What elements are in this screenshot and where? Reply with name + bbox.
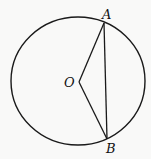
label-B: B — [105, 141, 116, 156]
label-A: A — [101, 7, 111, 22]
chord-AB — [104, 23, 107, 139]
label-O: O — [64, 75, 75, 90]
segment-OA — [79, 23, 104, 82]
segment-OB — [79, 82, 107, 139]
circle-diagram: O A B — [0, 0, 151, 159]
diagram-canvas: O A B — [0, 0, 151, 159]
circle — [11, 17, 145, 145]
